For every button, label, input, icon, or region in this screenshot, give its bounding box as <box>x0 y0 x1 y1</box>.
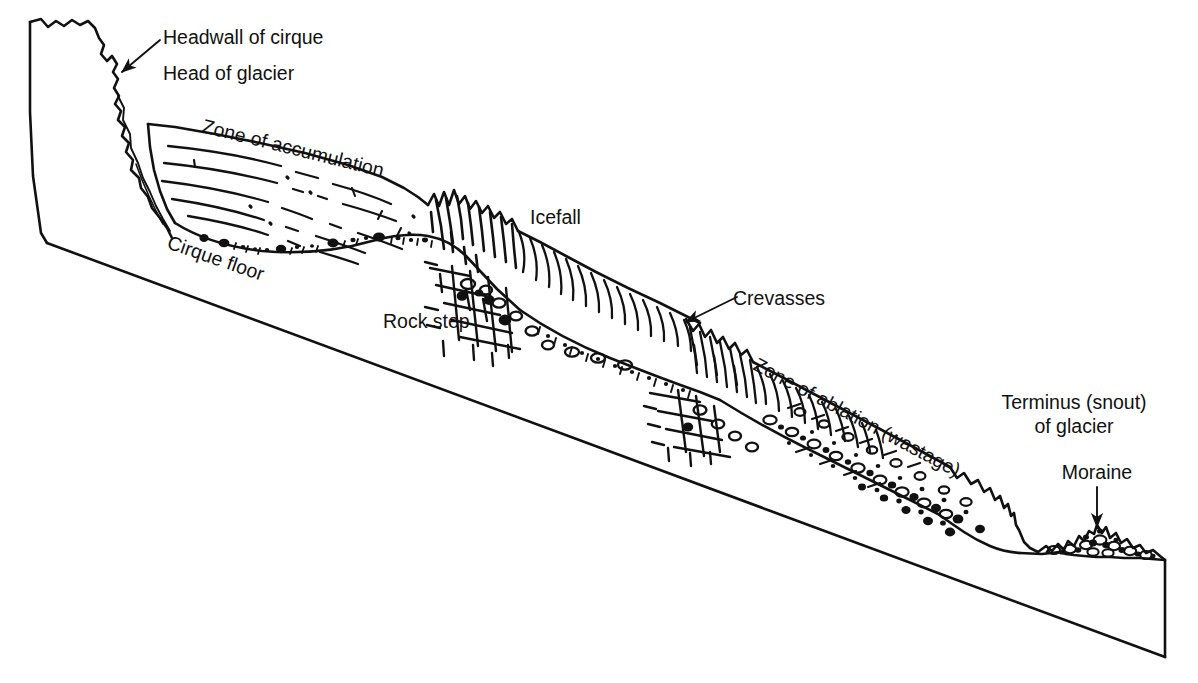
icefall-label: Icefall <box>530 206 581 228</box>
rock-step-label: Rock step <box>383 310 470 332</box>
crevasses-label: Crevasses <box>733 287 825 309</box>
crevasse-field-upper <box>518 231 700 351</box>
head-of-glacier-label: Head of glacier <box>163 62 295 84</box>
bedrock-block-outline <box>30 22 1165 657</box>
zone-of-ablation-label: Zone of ablation (wastage) <box>750 353 964 481</box>
headwall-leader-arrow <box>122 40 160 72</box>
cirque-floor-label: Cirque floor <box>165 231 268 285</box>
headwall-of-cirque-label: Headwall of cirque <box>163 26 323 48</box>
glacier-profile-diagram: Headwall of cirque Head of glacier Zone … <box>0 0 1198 683</box>
terminus-label-line-1: Terminus (snout) <box>1001 391 1146 413</box>
terminus-label-line-2: of glacier <box>1034 415 1114 437</box>
diagram-labels: Headwall of cirque Head of glacier Zone … <box>163 26 1147 483</box>
moraine-label: Moraine <box>1062 461 1132 483</box>
icefall-seracs <box>428 190 518 272</box>
crevasses-leader-arrow <box>686 297 737 322</box>
diagram-canvas: Headwall of cirque Head of glacier Zone … <box>0 0 1198 683</box>
lower-rock-step-bedrock <box>644 390 758 466</box>
headwall-of-cirque-outline <box>30 19 172 238</box>
terminal-moraine <box>1038 525 1165 560</box>
terminus-of-glacier <box>938 467 1060 554</box>
